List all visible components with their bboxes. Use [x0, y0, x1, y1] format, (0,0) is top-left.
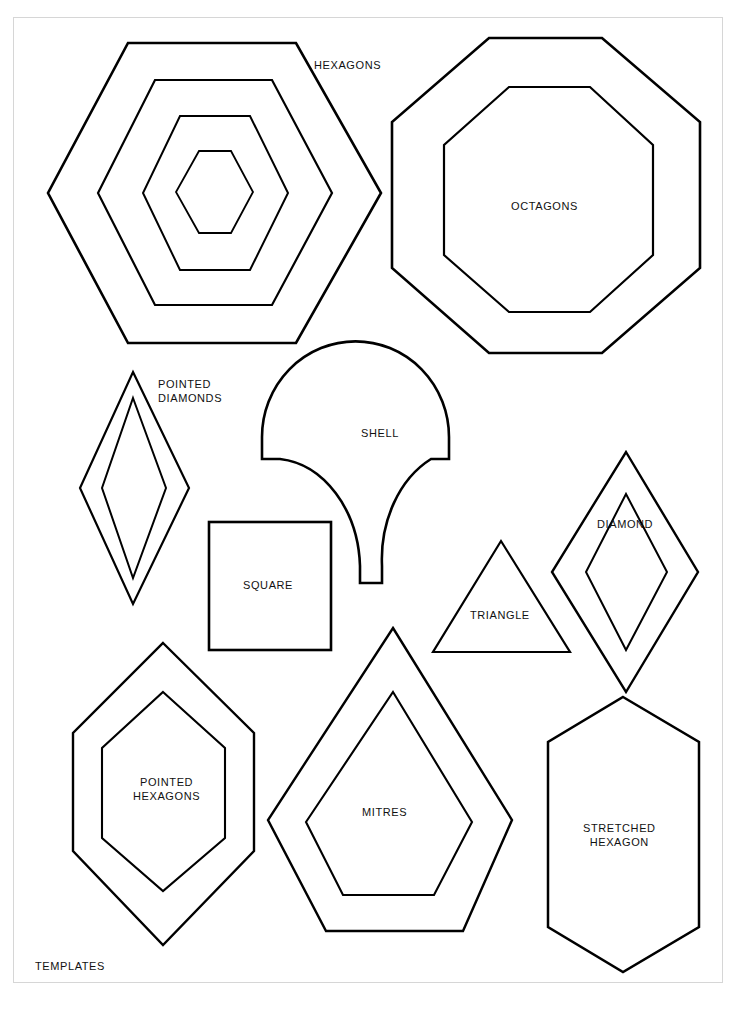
- pointed-diamond-outline-2: [102, 398, 166, 578]
- label-pointed-hexagons: POINTED HEXAGONS: [133, 776, 200, 803]
- shape-group-hexagons: [48, 43, 381, 343]
- label-octagons: OCTAGONS: [511, 200, 578, 214]
- label-diamond: DIAMOND: [597, 518, 653, 532]
- label-templates-footer: TEMPLATES: [35, 960, 105, 974]
- label-hexagons: HEXAGONS: [314, 59, 381, 73]
- shape-group-mitres: [268, 628, 512, 931]
- triangle-outline: [433, 541, 570, 652]
- label-pointed-diamonds: POINTED DIAMONDS: [158, 378, 222, 405]
- shape-group-octagons: [392, 38, 700, 353]
- shape-group-shell: [262, 341, 449, 583]
- hexagon-outline-4: [176, 151, 253, 233]
- hexagon-outline-3: [143, 116, 288, 270]
- label-mitres: MITRES: [362, 806, 407, 820]
- shell-outline: [262, 341, 449, 583]
- template-sheet-page: HEXAGONS OCTAGONS POINTED DIAMONDS SHELL…: [0, 0, 753, 1011]
- label-stretched-hexagon: STRETCHED HEXAGON: [583, 822, 656, 849]
- mitre-outline-1: [268, 628, 512, 931]
- shape-group-pointed-diamonds: [80, 372, 189, 604]
- pointed-diamond-outline-1: [80, 372, 189, 604]
- shape-group-diamond: [552, 452, 698, 692]
- template-shapes-artwork: [0, 0, 753, 1011]
- label-shell: SHELL: [361, 427, 399, 441]
- shape-group-triangle: [433, 541, 570, 652]
- label-square: SQUARE: [243, 579, 293, 593]
- hexagon-outline-2: [98, 80, 332, 305]
- diamond-outline-1: [552, 452, 698, 692]
- label-triangle: TRIANGLE: [470, 609, 530, 623]
